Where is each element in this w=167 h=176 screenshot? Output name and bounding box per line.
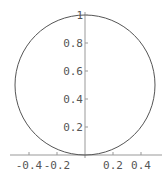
y-tick-label: 0.4 xyxy=(63,93,83,106)
y-tick-labels: 0.20.40.60.81 xyxy=(63,9,88,134)
x-tick-label: 0.2 xyxy=(103,159,123,172)
circle-plot: 0.20.40.60.81 -0.4-0.20.20.4 xyxy=(0,0,167,176)
x-tick-label: -0.2 xyxy=(44,159,71,172)
x-tick-label: 0.4 xyxy=(131,159,151,172)
x-tick-label: -0.4 xyxy=(16,159,43,172)
y-tick-label: 0.2 xyxy=(63,121,83,134)
y-tick-label: 1 xyxy=(76,9,83,22)
y-tick-label: 0.6 xyxy=(63,65,83,78)
y-tick-label: 0.8 xyxy=(63,37,83,50)
